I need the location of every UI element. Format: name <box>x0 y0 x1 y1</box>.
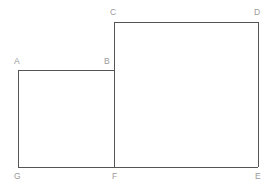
vertex-label-B: B <box>104 57 110 66</box>
vertex-label-C: C <box>110 8 116 17</box>
vertex-label-E: E <box>255 172 261 181</box>
vertex-label-F: F <box>112 172 117 181</box>
vertex-label-A: A <box>14 57 20 66</box>
geometry-canvas <box>0 0 276 187</box>
vertex-label-G: G <box>14 172 21 181</box>
vertex-label-D: D <box>254 8 260 17</box>
geometry-figure: A B C D E F G <box>0 0 276 187</box>
